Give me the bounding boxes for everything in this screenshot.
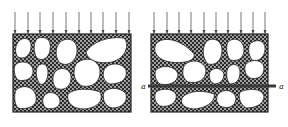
grains-left	[14, 38, 126, 110]
load-arrows-right	[154, 12, 265, 33]
section-label-right: a	[279, 82, 284, 91]
load-arrows-left	[15, 12, 129, 33]
section-label-left: a	[141, 82, 146, 91]
left-panel	[13, 12, 131, 112]
right-panel: a a	[141, 12, 284, 112]
grains-right	[155, 39, 265, 109]
diagram-canvas: a a	[0, 0, 288, 127]
